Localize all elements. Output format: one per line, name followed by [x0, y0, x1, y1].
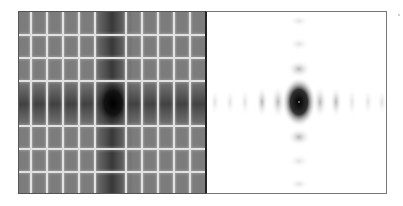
left-spectrum-panel: [18, 11, 206, 194]
corner-mark: [398, 14, 400, 16]
right-spectrum-image: [207, 12, 387, 193]
left-spectrum-image: [19, 12, 205, 193]
right-spectrum-panel: [205, 11, 387, 194]
